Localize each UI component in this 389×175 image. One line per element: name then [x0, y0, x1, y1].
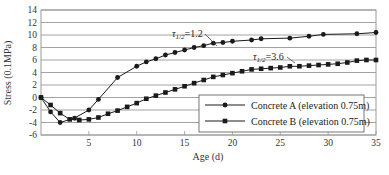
square-marker: [221, 73, 226, 78]
square-marker: [364, 58, 369, 63]
square-marker: [115, 108, 120, 113]
square-marker: [249, 67, 254, 72]
square-marker: [259, 66, 264, 71]
x-tick-label: 5: [86, 138, 91, 148]
square-marker: [173, 87, 178, 92]
y-tick-label: 10: [28, 30, 38, 40]
square-marker: [335, 61, 340, 66]
circle-marker: [48, 109, 53, 114]
square-marker: [355, 58, 360, 63]
square-marker: [345, 60, 350, 65]
square-marker: [307, 63, 312, 68]
circle-marker: [230, 39, 235, 44]
y-tick-label: 0: [32, 93, 37, 103]
square-marker: [39, 95, 44, 100]
x-tick-label: 30: [323, 138, 333, 148]
x-tick-label: 15: [180, 138, 190, 148]
x-axis-ticks: 5101520253035: [86, 131, 381, 148]
square-marker: [106, 111, 111, 116]
square-marker: [87, 117, 92, 122]
x-tick-label: 35: [371, 138, 381, 148]
circle-marker-icon: [223, 103, 228, 108]
x-tick-label: 25: [276, 138, 286, 148]
square-marker: [201, 78, 206, 83]
circle-marker: [153, 56, 158, 61]
circle-marker: [58, 120, 63, 125]
y-axis-ticks: -6-4-202468101214: [28, 5, 38, 140]
square-marker: [67, 117, 72, 122]
circle-marker: [307, 34, 312, 39]
tau-annotation: τ1/2=3.6: [253, 51, 284, 64]
square-marker: [374, 58, 379, 63]
square-marker: [144, 96, 149, 101]
square-marker: [240, 69, 245, 74]
square-marker: [58, 111, 63, 116]
annotations: τ1/2=1.2τ1/2=3.6: [172, 28, 295, 64]
square-marker: [163, 90, 168, 95]
circle-marker: [163, 53, 168, 58]
circle-marker: [321, 32, 326, 37]
circle-marker: [220, 40, 225, 45]
square-marker: [96, 115, 101, 120]
square-marker: [134, 101, 139, 106]
square-marker: [182, 84, 187, 89]
circle-marker: [259, 36, 264, 41]
x-tick-label: 20: [228, 138, 238, 148]
y-tick-label: 8: [32, 43, 37, 53]
square-marker: [326, 62, 331, 67]
square-marker: [48, 103, 53, 108]
square-marker: [297, 64, 302, 69]
circle-marker: [144, 59, 149, 64]
y-axis-title: Stress (0.1MPa): [2, 41, 14, 105]
y-tick-label: 2: [32, 80, 37, 90]
circle-marker: [173, 50, 178, 55]
circle-marker: [86, 108, 91, 113]
circle-marker: [287, 36, 292, 41]
square-marker: [316, 63, 321, 68]
square-marker: [192, 81, 197, 86]
y-tick-label: -2: [29, 105, 37, 115]
circle-marker: [201, 43, 206, 48]
stress-age-chart: -6-4-202468101214 5101520253035 Stress (…: [0, 0, 389, 175]
square-marker: [211, 75, 216, 80]
y-tick-label: 4: [32, 68, 37, 78]
circle-marker: [354, 31, 359, 36]
circle-marker: [249, 38, 254, 43]
legend-label: Concrete A (elevation 0.75m): [251, 100, 369, 112]
square-marker: [268, 66, 273, 71]
square-marker: [278, 65, 283, 70]
square-marker-icon: [223, 119, 228, 124]
square-marker: [154, 93, 159, 98]
circle-marker: [374, 30, 379, 35]
y-tick-label: -6: [29, 130, 37, 140]
legend-label: Concrete B (elevation 0.75m): [251, 116, 370, 128]
y-tick-label: 14: [28, 5, 38, 15]
circle-marker: [115, 75, 120, 80]
x-axis-title: Age (d): [193, 151, 224, 163]
y-tick-label: 6: [32, 55, 37, 65]
circle-marker: [192, 45, 197, 50]
square-marker: [77, 118, 82, 123]
circle-marker: [96, 97, 101, 102]
square-marker: [230, 71, 235, 76]
y-tick-label: 12: [28, 18, 38, 28]
y-tick-label: -4: [29, 118, 37, 128]
circle-marker: [211, 41, 216, 46]
square-marker: [125, 105, 130, 110]
legend: Concrete A (elevation 0.75m)Concrete B (…: [199, 95, 370, 132]
circle-marker: [182, 48, 187, 53]
square-marker: [288, 64, 293, 69]
tau-annotation: τ1/2=1.2: [172, 28, 203, 41]
circle-marker: [134, 64, 139, 69]
x-tick-label: 10: [132, 138, 142, 148]
